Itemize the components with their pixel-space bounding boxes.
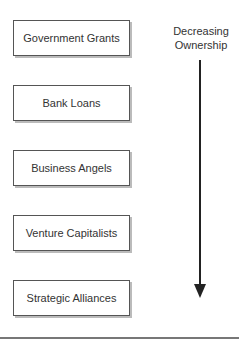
arrow-label-line1: Decreasing — [166, 24, 236, 38]
box-venture-capitalists: Venture Capitalists — [13, 215, 130, 251]
box-business-angels: Business Angels — [13, 150, 130, 186]
arrow-down-icon — [199, 60, 201, 288]
divider — [0, 337, 239, 339]
arrowhead-icon — [194, 284, 206, 298]
arrow-label-line2: Ownership — [166, 38, 236, 52]
arrow-label: Decreasing Ownership — [166, 24, 236, 52]
box-government-grants: Government Grants — [13, 20, 130, 56]
box-strategic-alliances: Strategic Alliances — [13, 280, 130, 316]
box-bank-loans: Bank Loans — [13, 85, 130, 121]
